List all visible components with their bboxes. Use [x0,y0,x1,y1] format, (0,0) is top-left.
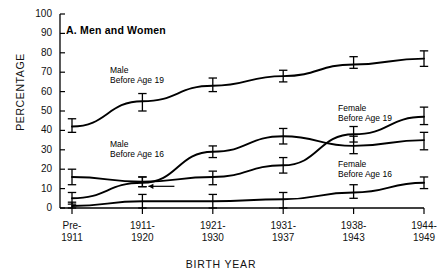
arrow-annotation-head [148,184,153,189]
plot-canvas [0,0,442,280]
series-line [72,117,424,182]
chart-figure: PERCENTAGE BIRTH YEAR A. Men and Women 0… [0,0,442,280]
series-line [72,59,424,127]
series-line [72,183,424,206]
series-line [72,136,424,198]
